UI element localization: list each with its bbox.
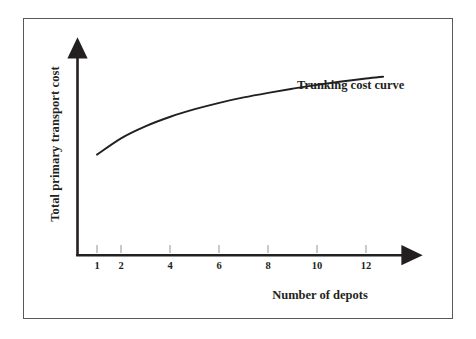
x-tick-label-6: 6 [209, 259, 229, 272]
x-tick-label-10: 10 [307, 259, 327, 272]
x-tick-label-8: 8 [258, 259, 278, 272]
x-tick-label-1: 1 [87, 259, 107, 272]
x-tick-label-12: 12 [356, 259, 376, 272]
y-axis-title: Total primary transport cost [46, 34, 64, 254]
x-tick-label-2: 2 [111, 259, 131, 272]
chart-figure: Total primary transport cost Number of d… [0, 0, 476, 339]
trunking-cost-curve-label: Trunking cost curve [297, 78, 404, 93]
x-axis-ticks [97, 245, 366, 253]
x-axis-title: Number of depots [232, 288, 408, 303]
x-tick-label-4: 4 [160, 259, 180, 272]
